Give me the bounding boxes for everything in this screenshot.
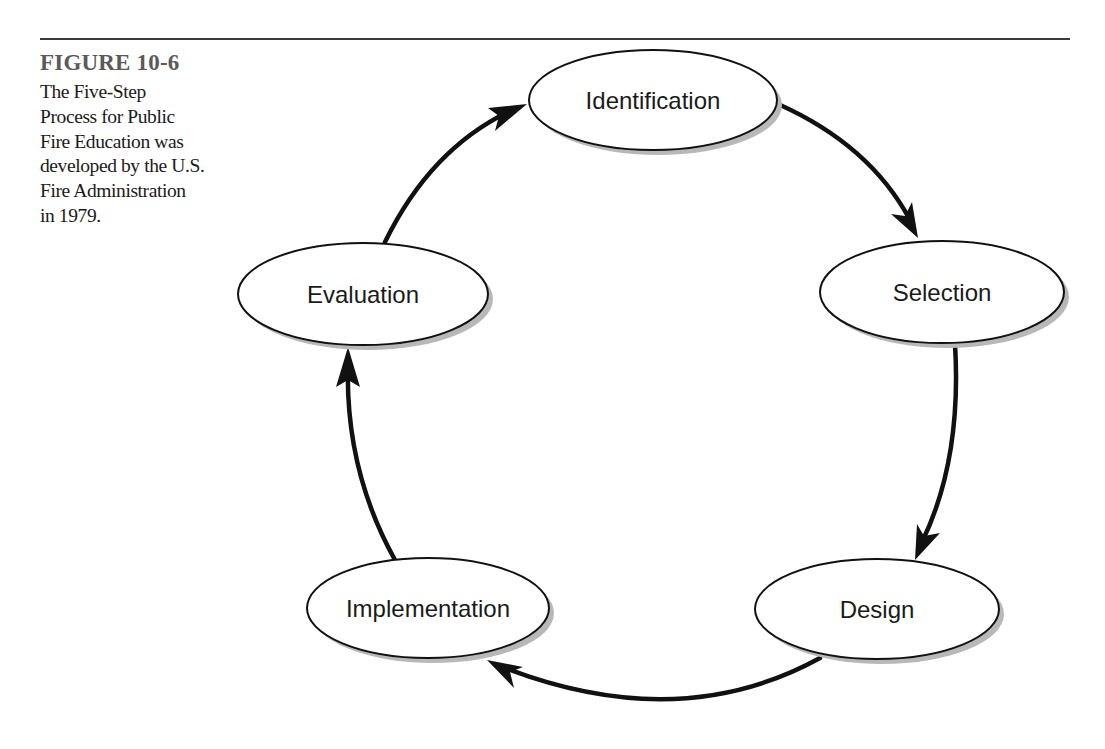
arrow-identification-to-selection bbox=[778, 104, 910, 220]
node-implementation: Implementation bbox=[307, 558, 554, 663]
node-design: Design bbox=[755, 559, 1004, 664]
arrow-evaluation-to-identification bbox=[385, 112, 508, 242]
five-step-cycle-diagram: Identification Selection Design Implemen… bbox=[0, 0, 1105, 749]
node-label: Selection bbox=[893, 279, 992, 306]
node-selection: Selection bbox=[820, 241, 1069, 348]
arrow-implementation-to-evaluation bbox=[348, 365, 395, 560]
node-label: Implementation bbox=[346, 595, 510, 622]
node-label: Evaluation bbox=[307, 281, 419, 308]
node-label: Identification bbox=[586, 87, 721, 114]
arrow-selection-to-design bbox=[922, 344, 956, 542]
arrow-design-to-implementation bbox=[505, 658, 820, 699]
node-label: Design bbox=[840, 596, 915, 623]
node-identification: Identification bbox=[529, 50, 782, 155]
node-evaluation: Evaluation bbox=[238, 243, 493, 350]
